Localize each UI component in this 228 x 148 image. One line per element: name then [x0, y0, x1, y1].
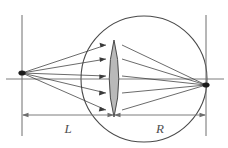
incident-ray-2	[22, 59, 106, 73]
incident-ray-group	[22, 43, 106, 112]
image-distance-label: R	[155, 121, 164, 136]
image-distance-right-arrowhead	[200, 113, 207, 117]
incident-ray-3-arrowhead	[99, 74, 106, 79]
optics-diagram-figure: L R	[0, 0, 228, 148]
optics-diagram-canvas: L R	[0, 0, 228, 148]
image-point-marker	[203, 83, 210, 88]
refracted-ray-2	[122, 59, 206, 85]
object-distance-label: L	[63, 121, 71, 136]
converging-lens	[109, 40, 119, 117]
incident-ray-2-arrowhead	[99, 57, 106, 62]
object-distance-left-arrowhead	[22, 113, 29, 117]
incident-ray-4-arrowhead	[99, 91, 106, 96]
point-source-marker	[19, 71, 26, 76]
incident-ray-1-arrowhead	[100, 43, 107, 48]
incident-ray-3	[22, 73, 106, 76]
refracted-ray-3	[122, 76, 206, 85]
refracted-ray-group	[122, 45, 206, 110]
incident-ray-4	[22, 73, 106, 93]
incident-ray-1	[22, 45, 106, 73]
